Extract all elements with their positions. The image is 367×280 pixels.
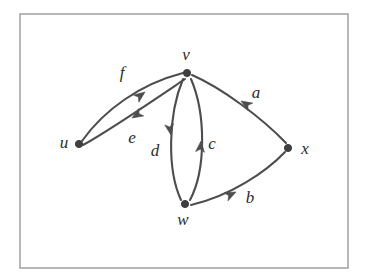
vertex-label-x: x bbox=[300, 139, 309, 158]
graph-diagram: fedcab uvwx bbox=[0, 0, 367, 280]
figure-container: fedcab uvwx bbox=[0, 0, 367, 280]
vertex-label-v: v bbox=[182, 45, 190, 64]
vertex-label-u: u bbox=[60, 133, 69, 152]
vertex-w bbox=[181, 200, 188, 207]
edge-label-c: c bbox=[208, 134, 216, 153]
edge-label-a: a bbox=[252, 83, 261, 102]
edge-label-b: b bbox=[246, 188, 255, 207]
vertex-v bbox=[183, 69, 190, 76]
edge-label-d: d bbox=[151, 141, 160, 160]
vertex-x bbox=[284, 144, 291, 151]
edge-label-e: e bbox=[128, 128, 136, 147]
vertex-u bbox=[75, 140, 82, 147]
vertex-label-w: w bbox=[177, 210, 189, 229]
